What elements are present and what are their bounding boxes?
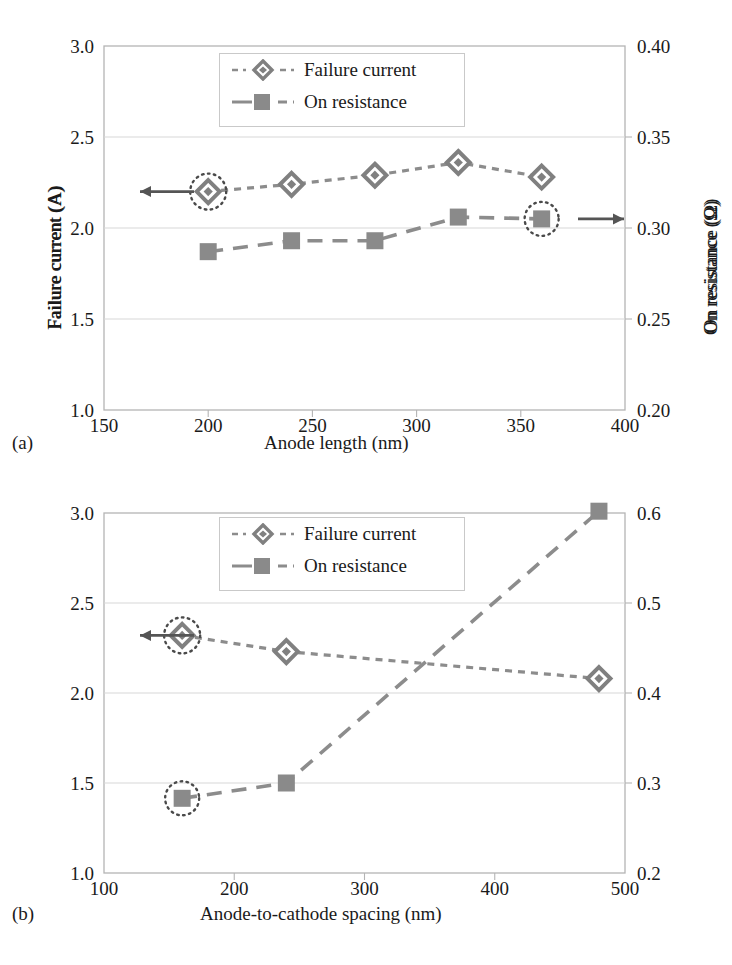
x-tick-b: 100: [90, 878, 119, 899]
y-tick-left-a: 1.5: [70, 309, 94, 330]
y-tick-left-a: 2.0: [70, 218, 94, 239]
y-axis-left-title-b: Failure current (A): [44, 186, 66, 330]
data-point-on-resistance: [366, 232, 383, 249]
y-tick-right-a: 0.30: [637, 218, 670, 239]
x-tick-a: 350: [507, 415, 536, 436]
x-tick-b: 300: [350, 878, 379, 899]
square-marker-icon: [230, 91, 296, 113]
y-axis-right-title-b: On resistance (Ω): [700, 199, 722, 333]
data-point-on-resistance: [533, 210, 550, 227]
x-tick-a: 200: [194, 415, 223, 436]
legend-item-on-resistance-b: On resistance: [220, 550, 464, 582]
legend-label-failure-current-b: Failure current: [304, 523, 416, 545]
y-tick-left-b: 2.0: [70, 683, 94, 704]
y-tick-left-b: 3.0: [70, 503, 94, 524]
y-tick-right-a: 0.35: [637, 127, 670, 148]
y-tick-right-b: 0.6: [637, 503, 661, 524]
data-point-on-resistance: [278, 775, 295, 792]
data-point-on-resistance: [174, 790, 191, 807]
figure-two-panel-chart: 1.01.52.02.53.00.200.250.300.350.4015020…: [0, 0, 732, 965]
chart-panel-a: 1.01.52.02.53.00.200.250.300.350.4015020…: [0, 0, 732, 470]
y-tick-right-b: 0.5: [637, 593, 661, 614]
legend-b: Failure current On resistance: [219, 517, 465, 591]
y-tick-right-b: 0.2: [637, 863, 661, 884]
square-marker-icon: [230, 555, 296, 577]
legend-item-on-resistance-a: On resistance: [220, 86, 464, 118]
data-point-on-resistance: [590, 503, 607, 520]
legend-item-failure-current-a: Failure current: [220, 54, 464, 86]
x-tick-a: 400: [611, 415, 640, 436]
y-tick-right-b: 0.4: [637, 683, 661, 704]
data-point-on-resistance: [450, 209, 467, 226]
y-tick-right-a: 0.20: [637, 400, 670, 421]
legend-item-failure-current-b: Failure current: [220, 518, 464, 550]
x-tick-a: 150: [90, 415, 119, 436]
data-point-on-resistance: [200, 243, 217, 260]
legend-a: Failure current On resistance: [219, 53, 465, 127]
panel-letter-b: (b): [12, 903, 34, 925]
y-tick-right-a: 0.25: [637, 309, 670, 330]
x-tick-b: 500: [611, 878, 640, 899]
panel-letter-a: (a): [12, 432, 33, 454]
diamond-marker-icon: [230, 59, 296, 81]
legend-label-on-resistance-b: On resistance: [304, 555, 407, 577]
x-axis-title-a: Anode length (nm): [264, 432, 409, 454]
x-axis-title-b: Anode-to-cathode spacing (nm): [200, 903, 442, 925]
y-tick-left-b: 2.5: [70, 593, 94, 614]
legend-label-failure-current-a: Failure current: [304, 59, 416, 81]
chart-panel-b: 1.01.52.02.53.00.20.30.40.50.61002003004…: [0, 465, 732, 965]
data-point-on-resistance: [283, 232, 300, 249]
x-tick-b: 200: [220, 878, 249, 899]
x-tick-b: 400: [481, 878, 510, 899]
y-tick-left-a: 3.0: [70, 36, 94, 57]
y-tick-right-a: 0.40: [637, 36, 670, 57]
legend-label-on-resistance-a: On resistance: [304, 91, 407, 113]
y-tick-left-b: 1.5: [70, 773, 94, 794]
y-tick-right-b: 0.3: [637, 773, 661, 794]
y-tick-left-a: 2.5: [70, 127, 94, 148]
diamond-marker-icon: [230, 523, 296, 545]
